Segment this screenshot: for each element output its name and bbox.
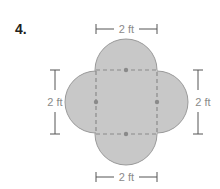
top-dimension-label: 2 ft: [119, 23, 134, 35]
left-dimension-label: 2 ft: [47, 96, 62, 108]
right-dimension-label: 2 ft: [195, 96, 210, 108]
bottom-dimension-label: 2 ft: [119, 171, 134, 183]
composite-figure-diagram: 2 ft 2 ft 2 ft 2 ft: [0, 0, 220, 189]
composite-shape: [65, 39, 188, 165]
